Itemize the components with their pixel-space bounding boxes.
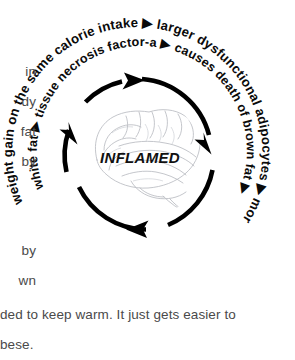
arrow-head-left [60,122,78,145]
arrow-head-right [195,133,212,155]
text-fragment: dy [0,94,36,109]
text-fragment: by [0,243,36,258]
text-fragment: in [0,64,36,79]
page-root: INFLAMED w [0,0,295,360]
body-line: bese. [0,337,34,352]
body-line: ded to keep warm. It just gets easier to [0,307,236,322]
text-fragment: wn [0,273,36,288]
arrow-head-top [123,73,146,90]
center-label: INFLAMED [100,149,180,166]
text-fragment: by [0,154,36,169]
inflammation-cycle-figure: INFLAMED w [0,0,295,360]
text-fragment: fat [0,124,36,139]
cycle-diagram-svg: INFLAMED w [0,0,295,360]
